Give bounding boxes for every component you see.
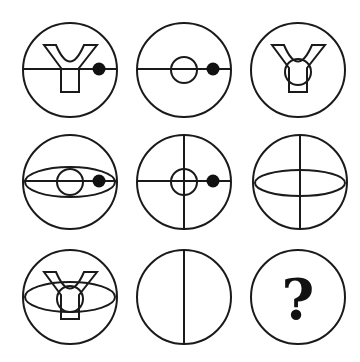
question-mark: ?	[282, 266, 315, 332]
puzzle-cell-1-3	[251, 23, 345, 117]
puzzle-cell-3-2	[137, 250, 231, 344]
outer-circle	[23, 250, 117, 344]
black-dot	[93, 175, 106, 188]
black-dot	[207, 175, 220, 188]
puzzle-cell-2-1	[23, 135, 117, 229]
figure-matrix-puzzle: ?	[0, 0, 360, 362]
puzzle-cell-2-3	[253, 135, 347, 229]
puzzle-cell-3-3: ?	[251, 250, 345, 344]
black-dot	[207, 63, 220, 76]
puzzle-cell-3-1	[23, 250, 117, 344]
black-dot	[93, 63, 106, 76]
puzzle-cell-1-1	[23, 23, 117, 117]
puzzle-cell-2-2	[137, 135, 231, 229]
puzzle-cell-1-2	[137, 23, 231, 117]
outer-circle	[251, 23, 345, 117]
